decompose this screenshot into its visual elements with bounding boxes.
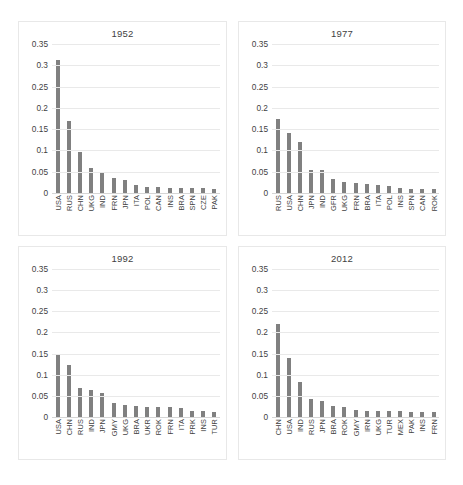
x-tick: POL: [383, 193, 394, 235]
gridline: [272, 44, 439, 45]
bar-item: [153, 44, 164, 193]
bar: [287, 358, 291, 417]
bar: [67, 365, 71, 417]
y-axis-labels-2: 00.050.10.150.20.250.30.35: [19, 269, 51, 417]
bar-item: [361, 269, 372, 417]
bar-item: [406, 44, 417, 193]
x-tick-label: GFR: [329, 195, 338, 211]
x-tick: POL: [142, 193, 153, 235]
x-tick-label: USA: [284, 195, 293, 211]
x-tick: UKR: [142, 417, 153, 459]
bar: [100, 173, 104, 193]
x-tick-label: JPN: [318, 419, 327, 433]
y-axis-labels-0: 00.050.10.150.20.250.30.35: [19, 44, 51, 193]
bar-item: [328, 269, 339, 417]
x-tick: FRN: [350, 193, 361, 235]
bar: [123, 405, 127, 417]
x-tick: CZE: [198, 193, 209, 235]
y-tick-label: 0.05: [252, 391, 268, 401]
x-tick: IND: [317, 193, 328, 235]
x-tick: USA: [52, 193, 63, 235]
x-tick: FRN: [428, 417, 439, 459]
bar: [309, 170, 313, 193]
y-tick-label: 0.3: [36, 285, 48, 295]
bar: [276, 324, 280, 417]
bar: [123, 180, 127, 193]
x-tick: PAK: [406, 417, 417, 459]
bar: [342, 407, 346, 417]
x-tick: IND: [86, 417, 97, 459]
y-tick-label: 0.35: [252, 39, 268, 49]
bar-item: [294, 269, 305, 417]
x-tick-label: USA: [53, 195, 62, 211]
bar-series-3: [272, 269, 439, 417]
x-tick-label: CHN: [295, 195, 304, 211]
chart-panel-2: 1992 00.050.10.150.20.250.30.35 USACHNRU…: [0, 243, 232, 485]
bar: [56, 354, 60, 417]
x-tick-label: BRA: [329, 419, 338, 435]
x-tick: PAK: [209, 193, 220, 235]
x-tick-label: SPN: [188, 195, 197, 211]
y-tick-label: 0.05: [32, 391, 48, 401]
bar-item: [428, 44, 439, 193]
plot-canvas-2: [52, 269, 220, 417]
x-tick: UKG: [372, 417, 383, 459]
y-tick-label: 0: [43, 412, 48, 422]
gridline: [272, 354, 439, 355]
y-tick-label: 0.1: [36, 145, 48, 155]
gridline: [52, 269, 220, 270]
x-tick: CAN: [417, 193, 428, 235]
gridline: [52, 129, 220, 130]
y-tick-label: 0.3: [256, 285, 268, 295]
bar: [134, 185, 138, 193]
chart-frame-1: 1977 00.050.10.150.20.250.30.35 RUSUSACH…: [238, 21, 446, 236]
bar-item: [175, 44, 186, 193]
plot-area-3: 00.050.10.150.20.250.30.35 CHNUSAINDRUSJ…: [239, 269, 445, 459]
x-tick: BRA: [361, 193, 372, 235]
y-tick-label: 0.3: [36, 60, 48, 70]
chart-panel-3: 2012 00.050.10.150.20.250.30.35 CHNUSAIN…: [232, 243, 463, 485]
bar: [287, 133, 291, 193]
x-tick: BRA: [328, 417, 339, 459]
x-tick-label: RUS: [76, 419, 85, 435]
x-tick: CHN: [63, 417, 74, 459]
x-tick: ROK: [428, 193, 439, 235]
x-tick-label: IND: [318, 195, 327, 208]
x-tick: RUS: [63, 193, 74, 235]
x-tick-label: POL: [384, 195, 393, 210]
bar-item: [395, 44, 406, 193]
x-tick: USA: [283, 417, 294, 459]
gridline: [52, 172, 220, 173]
x-tick-label: FRN: [109, 195, 118, 211]
plot-area-2: 00.050.10.150.20.250.30.35 USACHNRUSINDJ…: [19, 269, 226, 459]
x-tick-label: JPN: [306, 195, 315, 209]
x-tick-label: IND: [295, 419, 304, 432]
gridline: [52, 354, 220, 355]
x-tick-label: JPN: [120, 195, 129, 209]
x-tick: BRA: [175, 193, 186, 235]
x-axis-labels-2: USACHNRUSINDJPNGMYUKGBRAUKRROKFRNITAPRKI…: [52, 417, 220, 459]
x-tick: IND: [294, 417, 305, 459]
bar-item: [305, 44, 316, 193]
bar-item: [361, 44, 372, 193]
y-tick-label: 0.05: [252, 167, 268, 177]
x-tick-label: FRN: [429, 419, 438, 435]
x-tick: CHN: [74, 193, 85, 235]
x-tick-label: ROK: [429, 195, 438, 211]
gridline: [272, 396, 439, 397]
bar-item: [108, 44, 119, 193]
x-tick: RUS: [272, 193, 283, 235]
y-tick-label: 0.35: [32, 39, 48, 49]
x-tick-label: BRA: [132, 419, 141, 435]
x-tick-label: INS: [418, 419, 427, 432]
x-tick-label: USA: [53, 419, 62, 435]
bar-item: [383, 44, 394, 193]
bar-item: [97, 44, 108, 193]
bar-item: [372, 269, 383, 417]
bar-item: [272, 44, 283, 193]
x-tick-label: RUS: [64, 195, 73, 211]
x-tick: CHN: [272, 417, 283, 459]
bar-item: [130, 269, 141, 417]
bar-item: [153, 269, 164, 417]
x-tick-label: CHN: [273, 419, 282, 435]
